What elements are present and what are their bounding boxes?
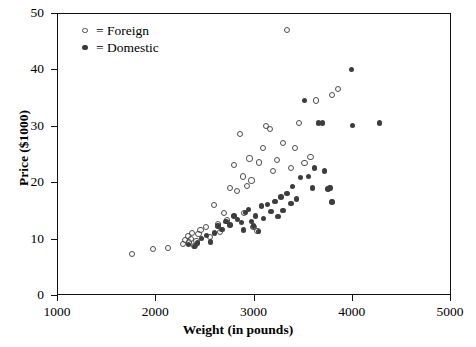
chart-legend: = Foreign = Domestic — [78, 22, 159, 56]
data-point-foreign — [307, 154, 313, 160]
data-point-domestic — [278, 194, 283, 199]
data-point-domestic — [280, 208, 285, 213]
data-point-domestic — [322, 168, 327, 173]
data-point-foreign — [256, 159, 262, 165]
x-tick — [254, 295, 255, 301]
y-tick — [51, 13, 57, 14]
data-point-domestic — [212, 230, 217, 235]
data-point-foreign — [165, 245, 171, 251]
data-point-foreign — [301, 160, 307, 166]
data-point-domestic — [320, 120, 325, 125]
data-point-foreign — [234, 188, 240, 194]
x-tick-label: 3000 — [224, 305, 284, 319]
legend-entry-domestic: = Domestic — [78, 39, 159, 56]
y-tick — [51, 182, 57, 183]
data-point-domestic — [219, 227, 224, 232]
data-point-foreign — [227, 185, 233, 191]
data-point-foreign — [313, 97, 319, 103]
x-tick-label: 5000 — [420, 305, 476, 319]
axis-line-right — [450, 13, 451, 295]
x-tick — [450, 295, 451, 301]
data-point-foreign — [189, 230, 195, 236]
x-axis-title: Weight (in pounds) — [0, 322, 476, 338]
data-point-domestic — [251, 223, 256, 228]
data-point-foreign — [296, 120, 302, 126]
y-tick — [51, 69, 57, 70]
data-point-domestic — [272, 199, 277, 204]
open-circle-icon — [78, 28, 92, 33]
data-point-foreign — [221, 210, 227, 216]
scatter-plot-figure: 01020304050 10002000300040005000 = Forei… — [0, 0, 476, 347]
x-tick-label: 2000 — [125, 305, 185, 319]
data-point-foreign — [329, 92, 335, 98]
data-point-domestic — [227, 222, 232, 227]
data-point-foreign — [244, 183, 250, 189]
data-point-domestic — [204, 233, 209, 238]
data-point-foreign — [240, 173, 246, 179]
data-point-foreign — [284, 27, 290, 33]
data-point-domestic — [312, 165, 317, 170]
y-axis-title: Price ($1000) — [16, 68, 32, 228]
data-point-domestic — [327, 185, 332, 190]
data-point-foreign — [267, 126, 273, 132]
data-point-foreign — [280, 140, 286, 146]
y-tick-label: 10 — [0, 232, 44, 246]
data-point-domestic — [195, 240, 200, 245]
x-tick — [352, 295, 353, 301]
y-tick — [51, 239, 57, 240]
y-tick-label: 50 — [0, 6, 44, 20]
x-tick — [155, 295, 156, 301]
data-point-domestic — [284, 191, 289, 196]
data-point-domestic — [288, 201, 293, 206]
legend-label-domestic: = Domestic — [96, 40, 159, 56]
data-point-domestic — [261, 216, 266, 221]
axis-line-top — [57, 13, 450, 14]
x-tick-label: 1000 — [27, 305, 87, 319]
data-point-domestic — [268, 209, 273, 214]
data-point-foreign — [274, 157, 280, 163]
data-point-domestic — [329, 199, 334, 204]
data-point-domestic — [275, 214, 280, 219]
data-point-foreign — [129, 251, 135, 257]
data-point-foreign — [246, 155, 252, 161]
data-point-domestic — [208, 239, 213, 244]
data-point-domestic — [377, 120, 382, 125]
data-point-foreign — [248, 177, 254, 183]
data-point-domestic — [256, 229, 261, 234]
y-tick — [51, 126, 57, 127]
filled-circle-icon — [78, 45, 92, 50]
data-point-domestic — [310, 185, 315, 190]
legend-label-foreign: = Foreign — [96, 23, 149, 39]
legend-entry-foreign: = Foreign — [78, 22, 159, 39]
x-tick-label: 4000 — [322, 305, 382, 319]
x-tick — [57, 295, 58, 301]
data-point-domestic — [253, 213, 258, 218]
data-point-domestic — [259, 203, 264, 208]
y-tick-label: 0 — [0, 288, 44, 302]
